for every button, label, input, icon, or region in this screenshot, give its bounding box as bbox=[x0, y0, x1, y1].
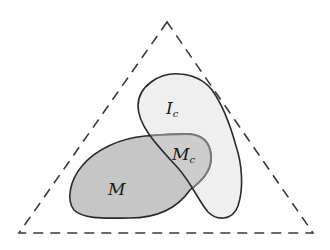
label-m: M bbox=[107, 179, 126, 199]
diagram-canvas: Ic Mc M bbox=[0, 0, 330, 250]
set-diagram: Ic Mc M bbox=[0, 0, 330, 250]
